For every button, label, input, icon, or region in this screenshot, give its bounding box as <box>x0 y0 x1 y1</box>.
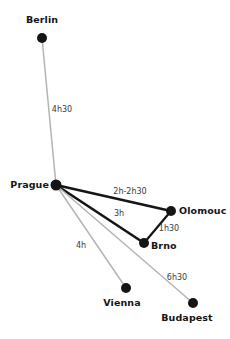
city-node-prague[interactable] <box>51 180 62 191</box>
travel-time-label-prague-budapest: 6h30 <box>167 274 187 282</box>
travel-time-label-prague-olomouc: 2h-2h30 <box>113 188 146 196</box>
city-node-olomouc[interactable] <box>166 206 176 216</box>
travel-time-label-prague-berlin: 4h30 <box>52 106 72 114</box>
city-label-budapest: Budapest <box>161 313 212 323</box>
edge-layer <box>0 0 230 339</box>
city-label-vienna: Vienna <box>103 298 140 308</box>
city-node-budapest[interactable] <box>188 298 198 308</box>
city-node-vienna[interactable] <box>121 283 131 293</box>
city-label-brno: Brno <box>151 241 177 251</box>
city-node-brno[interactable] <box>139 238 149 248</box>
travel-time-label-olomouc-brno: 1h30 <box>159 225 179 233</box>
travel-time-label-prague-vienna: 4h <box>76 242 86 250</box>
travel-time-map: BerlinPragueOlomoucBrnoViennaBudapest4h3… <box>0 0 230 339</box>
travel-time-label-prague-brno: 3h <box>114 210 124 218</box>
city-label-prague: Prague <box>10 180 49 190</box>
city-label-berlin: Berlin <box>26 15 58 25</box>
city-label-olomouc: Olomouc <box>179 206 226 216</box>
city-node-berlin[interactable] <box>37 33 47 43</box>
